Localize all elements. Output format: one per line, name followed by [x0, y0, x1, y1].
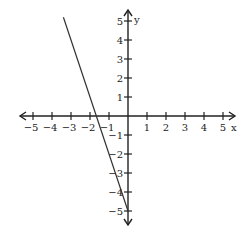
y-tick-label: 4 [117, 35, 123, 46]
x-tick-label: 1 [144, 122, 150, 133]
line-series [63, 17, 128, 211]
tick-labels: −5−4−3−2−112345−5−4−3−2−112345xy [24, 14, 237, 217]
x-tick-label: 4 [201, 122, 207, 133]
plotted-line [63, 17, 128, 211]
y-tick-label: 1 [117, 92, 123, 103]
y-tick-label: 5 [117, 16, 123, 27]
y-tick-label: −1 [108, 130, 123, 141]
coordinate-plane: −5−4−3−2−112345−5−4−3−2−112345xy [0, 0, 246, 237]
y-tick-label: −5 [108, 206, 123, 217]
y-tick-label: 2 [117, 73, 123, 84]
x-tick-label: −3 [62, 122, 77, 133]
x-tick-label: −5 [24, 122, 39, 133]
y-axis-label: y [133, 14, 140, 25]
x-tick-label: 5 [220, 122, 226, 133]
x-tick-label: 3 [182, 122, 188, 133]
x-tick-label: −4 [43, 122, 58, 133]
y-tick-label: 3 [117, 54, 123, 65]
x-axis-label: x [231, 122, 237, 133]
x-tick-label: 2 [163, 122, 169, 133]
x-tick-label: −2 [81, 122, 96, 133]
